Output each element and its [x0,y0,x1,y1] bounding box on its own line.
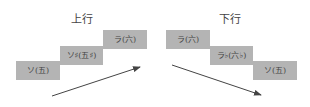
arrows-layer [0,0,310,107]
descending-arrow-icon [172,65,261,95]
ascending-arrow-icon [52,67,140,96]
